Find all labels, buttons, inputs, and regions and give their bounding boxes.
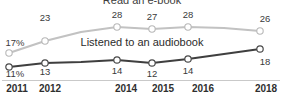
value-label-audiobook-2011: 11% xyxy=(6,69,24,79)
data-point-marker-ebook-2014 xyxy=(114,24,120,30)
x-axis-labels: 2011 2012 2014 2015 2016 2018 xyxy=(0,83,284,99)
data-point-marker-ebook-2011 xyxy=(6,50,12,56)
line-chart: Read an e-book Listened to an audiobook … xyxy=(0,0,284,100)
data-point-marker-audiobook-2016 xyxy=(185,56,191,62)
value-label-audiobook-2016: 14 xyxy=(183,66,194,76)
data-point-marker-ebook-2016 xyxy=(185,24,191,30)
value-label-ebook-2012: 23 xyxy=(40,13,51,23)
value-label-audiobook-2012: 13 xyxy=(40,67,51,77)
plot-area: Read an e-book Listened to an audiobook … xyxy=(0,0,284,82)
value-label-ebook-2018: 26 xyxy=(260,14,271,24)
series-label-listened-audiobook: Listened to an audiobook xyxy=(0,36,284,48)
data-point-marker-ebook-2015 xyxy=(149,26,155,32)
data-point-marker-ebook-2018 xyxy=(257,28,263,34)
x-tick-label-2016: 2016 xyxy=(192,83,214,95)
x-tick-label-2012: 2012 xyxy=(39,83,61,95)
x-tick-label-2018: 2018 xyxy=(255,83,277,95)
chart-title: Read an e-book xyxy=(0,0,284,6)
data-point-marker-audiobook-2014 xyxy=(114,57,120,63)
value-label-audiobook-2018: 18 xyxy=(260,57,271,67)
x-tick-label-2015: 2015 xyxy=(152,83,174,95)
value-label-ebook-2011: 17% xyxy=(5,38,24,48)
x-tick-label-2014: 2014 xyxy=(115,83,137,95)
value-label-ebook-2014: 28 xyxy=(112,10,123,20)
x-axis-line xyxy=(2,80,280,81)
value-label-ebook-2016: 28 xyxy=(183,10,194,20)
data-point-marker-audiobook-2015 xyxy=(149,60,155,66)
value-label-ebook-2015: 27 xyxy=(147,12,158,22)
value-label-audiobook-2015: 12 xyxy=(147,69,158,79)
x-tick-label-2011: 2011 xyxy=(6,83,28,95)
value-label-audiobook-2014: 14 xyxy=(112,66,123,76)
